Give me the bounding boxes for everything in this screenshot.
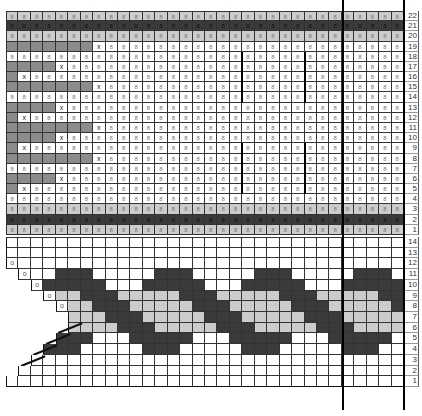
chart-cell: 8 [267, 42, 279, 52]
chart-cell [379, 312, 391, 323]
chart-cell: 8 [168, 92, 180, 102]
chart-cell [180, 248, 192, 259]
chart-cell [242, 248, 254, 259]
chart-cell [130, 333, 142, 344]
chart-cell [230, 280, 242, 291]
chart-cell: 8 [217, 194, 229, 204]
chart-cell: 8 [118, 204, 130, 214]
chart-cell: 8 [329, 133, 341, 143]
chart-cell: 8 [379, 72, 391, 82]
chart-cell [143, 323, 155, 334]
chart-cell: 8 [354, 154, 366, 164]
chart-cell: 8 [155, 103, 167, 113]
chart-cell [168, 344, 180, 355]
chart-cell: 8 [280, 92, 292, 102]
chart-cell: 8 [305, 113, 317, 123]
chart-cell: 8 [329, 164, 341, 174]
chart-cell [168, 376, 180, 387]
chart-cell [68, 258, 80, 269]
chart-cell: 8 [305, 82, 317, 92]
chart-cell: 8 [255, 154, 267, 164]
repeat-boundary-line [403, 0, 405, 410]
chart-cell [205, 269, 217, 280]
chart-cell: 8 [93, 92, 105, 102]
chart-cell [130, 280, 142, 291]
chart-cell: 8 [106, 133, 118, 143]
chart-cell [6, 184, 18, 194]
chart-cell: 8 [379, 133, 391, 143]
chart-cell: 8 [379, 31, 391, 41]
chart-cell: 8 [367, 52, 379, 62]
chart-cell: 8 [193, 154, 205, 164]
chart-cell: 8 [155, 113, 167, 123]
chart-cell: 8 [367, 184, 379, 194]
chart-cell: 8 [205, 164, 217, 174]
pattern-marker-line [241, 52, 243, 103]
chart-cell [93, 333, 105, 344]
chart-cell [193, 344, 205, 355]
chart-cell [354, 366, 366, 377]
chart-cell: 8 [130, 62, 142, 72]
chart-cell: 8 [193, 92, 205, 102]
chart-cell: 8 [81, 184, 93, 194]
chart-cell: 8 [379, 164, 391, 174]
chart-cell: 8 [280, 21, 292, 31]
chart-cell: 8 [155, 62, 167, 72]
chart-cell [180, 333, 192, 344]
chart-cell [93, 344, 105, 355]
chart-cell: 8 [31, 143, 43, 153]
chart-cell [93, 248, 105, 259]
chart-cell: 8 [6, 31, 18, 41]
chart-cell: 8 [230, 113, 242, 123]
chart-cell: 8 [68, 143, 80, 153]
chart-cell: 8 [193, 143, 205, 153]
chart-cell [255, 333, 267, 344]
chart-cell [317, 269, 329, 280]
chart-cell [43, 82, 55, 92]
chart-cell: 8 [280, 52, 292, 62]
chart-cell: 8 [68, 21, 80, 31]
chart-cell: 8 [379, 194, 391, 204]
chart-cell: 8 [292, 225, 304, 235]
chart-cell [68, 366, 80, 377]
chart-cell: 8 [193, 174, 205, 184]
chart-cell [280, 291, 292, 302]
chart-cell [205, 366, 217, 377]
chart-cell: 8 [305, 143, 317, 153]
chart-cell: 8 [305, 42, 317, 52]
chart-cell [379, 333, 391, 344]
chart-cell: 8 [106, 62, 118, 72]
chart-cell [118, 269, 130, 280]
chart-cell: 8 [180, 154, 192, 164]
chart-cell [242, 376, 254, 387]
chart-cell: 8 [155, 82, 167, 92]
chart-cell [130, 248, 142, 259]
chart-cell: 8 [367, 194, 379, 204]
chart-cell: 8 [255, 133, 267, 143]
chart-cell: 8 [255, 72, 267, 82]
chart-cell: 8 [118, 103, 130, 113]
chart-cell [6, 42, 18, 52]
chart-cell: 8 [155, 31, 167, 41]
chart-cell [68, 42, 80, 52]
chart-cell [354, 344, 366, 355]
chart-cell [193, 280, 205, 291]
chart-cell: 8 [255, 143, 267, 153]
row-label: 7 [405, 164, 419, 174]
chart-cell [143, 312, 155, 323]
row-label: 6 [405, 323, 419, 334]
chart-cell [280, 312, 292, 323]
chart-cell [43, 42, 55, 52]
x-mark: x [18, 143, 30, 153]
chart-cell: 8 [255, 21, 267, 31]
chart-cell [329, 323, 341, 334]
chart-cell [130, 366, 142, 377]
chart-cell [280, 376, 292, 387]
chart-cell: 8 [255, 215, 267, 225]
edge [18, 269, 19, 270]
chart-cell [267, 237, 279, 248]
chart-cell: 8 [143, 31, 155, 41]
chart-cell [143, 258, 155, 269]
chart-cell [155, 258, 167, 269]
chart-cell [242, 355, 254, 366]
